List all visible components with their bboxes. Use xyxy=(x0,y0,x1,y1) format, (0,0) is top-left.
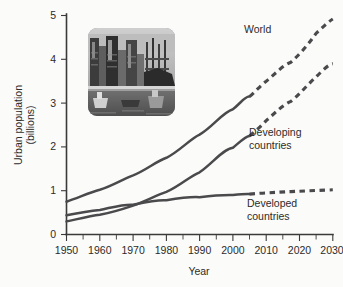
series-label-developing-line2: countries xyxy=(249,139,292,151)
urban-waterfront-photo xyxy=(88,28,175,116)
series-label-developed-line1: Developed xyxy=(247,197,297,209)
y-tick-label-5: 5 xyxy=(50,9,56,21)
x-axis-title: Year xyxy=(188,265,210,277)
y-axis-title-line2: (billions) xyxy=(24,105,36,144)
y-tick-label-2: 2 xyxy=(50,140,56,152)
x-axis-ticks xyxy=(67,235,333,242)
y-axis-title-line1: Urban population xyxy=(12,85,24,165)
x-tick-label-1980: 1980 xyxy=(155,244,179,256)
x-tick-label-2030: 2030 xyxy=(320,244,343,256)
chart-figure: 0 1 2 3 4 5 Urban population (billions) xyxy=(0,0,343,287)
y-axis-title: Urban population (billions) xyxy=(12,85,36,165)
y-axis-tick-labels: 0 1 2 3 4 5 xyxy=(50,9,56,240)
y-axis-ticks xyxy=(61,16,66,235)
y-tick-label-0: 0 xyxy=(50,228,56,240)
series-label-developing-line1: Developing xyxy=(249,126,302,138)
series-label-world-text: World xyxy=(244,23,271,35)
x-tick-label-1950: 1950 xyxy=(55,244,79,256)
x-tick-label-1960: 1960 xyxy=(88,244,112,256)
x-tick-label-1990: 1990 xyxy=(188,244,212,256)
x-tick-label-2020: 2020 xyxy=(288,244,312,256)
series-label-developing: Developing countries xyxy=(249,126,302,151)
x-axis-tick-labels: 1950 1960 1970 1980 1990 2000 2010 2020 … xyxy=(55,244,343,256)
y-tick-label-1: 1 xyxy=(50,184,56,196)
x-tick-label-2010: 2010 xyxy=(255,244,279,256)
y-tick-label-3: 3 xyxy=(50,97,56,109)
series-developed-historical xyxy=(67,194,250,215)
series-developing-historical xyxy=(67,136,250,221)
series-label-developed-line2: countries xyxy=(247,210,290,222)
x-tick-label-1970: 1970 xyxy=(121,244,145,256)
y-tick-label-4: 4 xyxy=(50,53,56,65)
series-developed-projection xyxy=(250,190,333,194)
photo-content xyxy=(88,28,175,116)
x-tick-label-2000: 2000 xyxy=(221,244,245,256)
series-label-developed: Developed countries xyxy=(247,197,297,222)
series-label-world: World xyxy=(244,23,271,35)
